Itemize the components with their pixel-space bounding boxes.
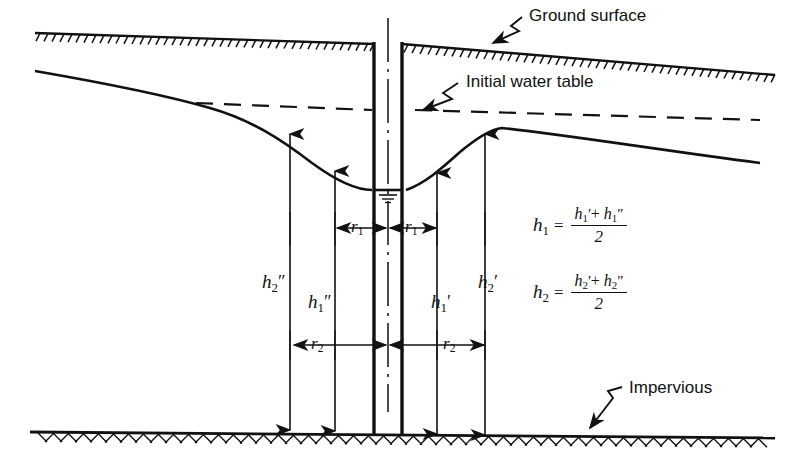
h2-double-prime-base: h <box>262 271 272 292</box>
dimension-label-h1-prime: h1′ <box>431 292 450 315</box>
r1-left-base: r <box>351 217 358 236</box>
r2-left-base: r <box>311 334 318 353</box>
dimension-label-r2-right: r2 <box>443 335 455 355</box>
r1-right-sub: 1 <box>412 225 418 238</box>
initial-water-table-leader <box>423 83 458 110</box>
formula-h2: h2 = h2′+ h2″ 2 <box>533 272 627 314</box>
impervious-label: Impervious <box>629 379 712 396</box>
formula-h1-fraction: h1′+ h1″ 2 <box>571 205 628 247</box>
impervious-leader <box>590 387 622 428</box>
formula-h1-equals: = <box>554 216 564 236</box>
formula-h2-denominator: 2 <box>595 293 604 314</box>
dimension-label-h2-double-prime: h2″ <box>262 272 285 295</box>
r2-left-sub: 2 <box>318 342 324 355</box>
h1-double-prime-base: h <box>308 291 318 312</box>
formula-h1-denominator: 2 <box>595 226 604 247</box>
drawdown-curve <box>35 71 760 190</box>
h1-prime-mark: ′ <box>447 292 450 312</box>
ground-surface-label: Ground surface <box>529 7 646 24</box>
dimension-label-h1-double-prime: h1″ <box>308 292 331 315</box>
formula-h2-fraction: h2′+ h2″ 2 <box>571 272 628 314</box>
h2-prime-base: h <box>478 271 488 292</box>
formula-h1-numerator: h1′+ h1″ <box>571 205 628 225</box>
dimension-label-r1-left: r1 <box>351 218 363 238</box>
dimension-label-r1-right: r1 <box>405 218 417 238</box>
initial-water-table-label: Initial water table <box>466 73 594 90</box>
initial-water-table-dashed-line <box>196 103 760 120</box>
well-drawdown-diagram: Ground surface Initial water table Imper… <box>0 0 799 471</box>
diagram-canvas <box>0 0 799 471</box>
dimension-label-h2-prime: h2′ <box>478 272 497 295</box>
h2-double-prime-mark: ″ <box>278 272 285 292</box>
r1-right-base: r <box>405 217 412 236</box>
r2-right-base: r <box>443 334 450 353</box>
formula-h2-lhs: h2 <box>533 281 549 306</box>
formula-h2-numerator: h2′+ h2″ <box>571 272 628 292</box>
dimension-label-r2-left: r2 <box>311 335 323 355</box>
formula-h1: h1 = h1′+ h1″ 2 <box>533 205 627 247</box>
r2-right-sub: 2 <box>450 342 456 355</box>
ground-surface-leader <box>493 17 522 43</box>
h1-prime-base: h <box>431 291 441 312</box>
formula-h2-equals: = <box>554 283 564 303</box>
r1-left-sub: 1 <box>358 225 364 238</box>
ground-surface-hatching <box>36 33 775 82</box>
ground-surface-line <box>35 33 775 75</box>
formula-h1-lhs: h1 <box>533 214 549 239</box>
h1-double-prime-mark: ″ <box>324 292 331 312</box>
h2-prime-mark: ′ <box>494 272 497 292</box>
